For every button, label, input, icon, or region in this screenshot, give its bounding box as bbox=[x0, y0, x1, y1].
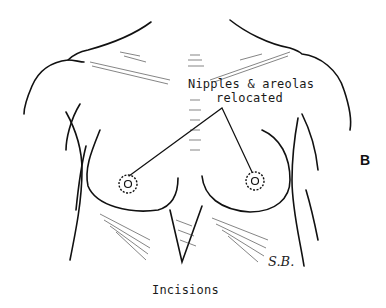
nipples-label-line2: relocated bbox=[216, 92, 283, 105]
incisions-leader-lines bbox=[170, 206, 202, 262]
panel-letter: B bbox=[360, 152, 370, 168]
illustration-canvas: Nipples & areolas relocated Incisions B … bbox=[0, 0, 386, 308]
nipples-label-line1: Nipples & areolas bbox=[188, 78, 314, 91]
artist-signature: S.B. bbox=[268, 254, 294, 269]
left-nipple-areola bbox=[119, 175, 137, 193]
left-shoulder-outline bbox=[24, 22, 151, 114]
right-nipple-areola bbox=[246, 172, 264, 190]
torso-drawing bbox=[0, 0, 386, 308]
right-shoulder-outline bbox=[230, 20, 351, 130]
right-breast-outline bbox=[202, 130, 290, 212]
nipples-leader-lines bbox=[129, 108, 252, 176]
right-torso-side bbox=[292, 118, 304, 266]
incisions-label: Incisions bbox=[152, 284, 219, 297]
left-breast-outline bbox=[87, 130, 178, 211]
